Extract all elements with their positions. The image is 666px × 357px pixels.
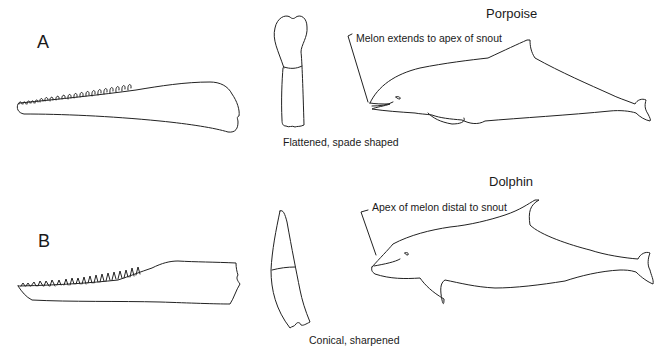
dolphin-jaw xyxy=(18,261,240,304)
dolphin-tooth xyxy=(271,211,310,328)
dolphin-body xyxy=(361,200,653,304)
porpoise-body xyxy=(348,34,650,124)
diagram-canvas xyxy=(0,0,666,357)
porpoise-tooth xyxy=(274,16,307,127)
porpoise-jaw xyxy=(17,82,239,132)
